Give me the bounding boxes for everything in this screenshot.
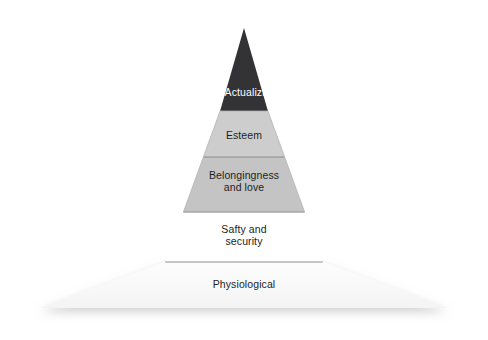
pyramid-tier-physiological (40, 262, 448, 308)
pyramid-graphic (0, 0, 488, 340)
pyramid-tier-belongingness (183, 157, 304, 212)
pyramid-tier-safety (165, 212, 323, 262)
pyramid-tier-esteem (203, 111, 284, 157)
pyramid-tier-self-actualization (220, 28, 268, 111)
pyramid-diagram: Self-Actualization Esteem Belongingness … (0, 0, 488, 340)
